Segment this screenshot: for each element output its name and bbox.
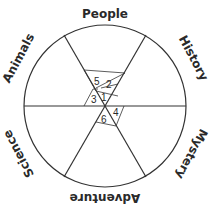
number-3: 3	[91, 94, 97, 105]
number-5: 5	[94, 76, 100, 87]
label-people: People	[82, 7, 128, 21]
label-adventure: Adventure	[70, 191, 141, 205]
label-science: Science	[0, 128, 37, 180]
label-history: History	[176, 33, 210, 83]
number-4: 4	[113, 107, 119, 118]
label-mystery: Mystery	[172, 127, 210, 182]
number-6: 6	[101, 114, 107, 125]
number-2: 2	[106, 79, 112, 90]
label-animals: Animals	[0, 31, 37, 85]
genre-wheel-diagram: 5 2 3 1 4 6 People History Mystery Adven…	[0, 0, 210, 212]
number-1: 1	[101, 92, 107, 103]
